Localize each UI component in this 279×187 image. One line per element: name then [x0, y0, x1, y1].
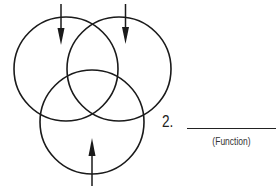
arrow-top-left-icon [58, 4, 65, 45]
answer-blank-line[interactable] [187, 128, 276, 129]
circle-right [67, 17, 171, 121]
blank-caption: (Function) [194, 136, 270, 147]
circle-left [14, 17, 118, 121]
item-number: 2. [162, 113, 173, 131]
venn-diagram [0, 0, 279, 187]
arrow-top-right-icon [122, 4, 129, 44]
arrow-bottom-icon [89, 138, 96, 186]
